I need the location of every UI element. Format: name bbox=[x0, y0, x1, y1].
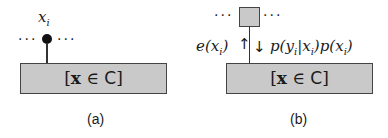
bracket-close: ] bbox=[116, 68, 123, 88]
constraint-var: x bbox=[71, 68, 81, 88]
dots-right: ··· bbox=[57, 34, 76, 44]
constraint-relation: ∈ bbox=[287, 68, 310, 88]
caption-b: (b) bbox=[290, 111, 307, 127]
up-message: e(xi) bbox=[196, 37, 228, 57]
factor-node-icon[interactable] bbox=[239, 7, 260, 27]
constraint-relation: ∈ bbox=[81, 68, 104, 88]
down-message: p(yi|xi)p(xi) bbox=[270, 37, 353, 57]
dots-left: ··· bbox=[18, 34, 37, 44]
dots-right: ··· bbox=[263, 10, 282, 20]
constraint-label: [x ∈ C] bbox=[227, 64, 372, 93]
constraint-set: C bbox=[310, 68, 322, 88]
node-label-sub: i bbox=[46, 17, 49, 28]
edge-line bbox=[46, 43, 48, 64]
up-message-var: x bbox=[211, 37, 219, 55]
constraint-box[interactable]: [x ∈ C] bbox=[20, 63, 167, 94]
constraint-label: [x ∈ C] bbox=[21, 64, 166, 93]
down-message-part: |x bbox=[297, 37, 311, 55]
bracket-open: [ bbox=[270, 68, 277, 88]
up-message-fn: e( bbox=[196, 37, 211, 55]
dots-left: ··· bbox=[214, 10, 233, 20]
down-message-part: ) bbox=[347, 37, 353, 55]
bracket-open: [ bbox=[64, 68, 71, 88]
down-message-part: )p(x bbox=[314, 37, 344, 55]
constraint-var: x bbox=[277, 68, 287, 88]
node-label: xi bbox=[38, 8, 50, 28]
constraint-box[interactable]: [x ∈ C] bbox=[226, 63, 373, 94]
constraint-set: C bbox=[104, 68, 116, 88]
down-message-part: p(y bbox=[270, 37, 294, 55]
caption-a: (a) bbox=[87, 111, 104, 127]
up-arrow-icon: ↑ bbox=[238, 35, 251, 53]
bracket-close: ] bbox=[322, 68, 329, 88]
up-message-close: ) bbox=[222, 37, 228, 55]
down-arrow-icon: ↓ bbox=[253, 38, 266, 56]
